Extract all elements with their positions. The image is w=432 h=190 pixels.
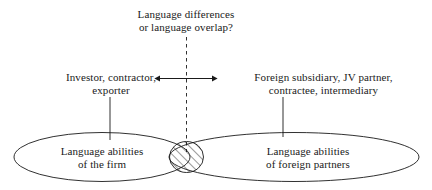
question-label-line1: Language differences — [138, 8, 235, 20]
right-actor-label-line2: contractee, intermediary — [216, 84, 431, 97]
right-set-label-line2: of foreign partners — [228, 158, 388, 171]
left-set-label-line1: Language abilities — [61, 145, 144, 157]
left-actor-label-line2: exporter — [26, 84, 196, 97]
question-label-line2: or language overlap? — [86, 21, 286, 34]
question-label: Language differences or language overlap… — [86, 8, 286, 34]
left-actor-label: Investor, contractor, exporter — [26, 71, 196, 97]
right-set-label-line1: Language abilities — [267, 145, 350, 157]
right-set-label: Language abilities of foreign partners — [228, 145, 388, 171]
left-set-label: Language abilities of the firm — [32, 145, 172, 171]
right-actor-label-line1: Foreign subsidiary, JV partner, — [254, 71, 392, 83]
left-actor-label-line1: Investor, contractor, — [66, 71, 156, 83]
left-set-label-line2: of the firm — [32, 158, 172, 171]
right-actor-label: Foreign subsidiary, JV partner, contract… — [216, 71, 431, 97]
intersection-hatched-region — [170, 142, 204, 173]
language-overlap-diagram: Language differences or language overlap… — [0, 0, 432, 190]
